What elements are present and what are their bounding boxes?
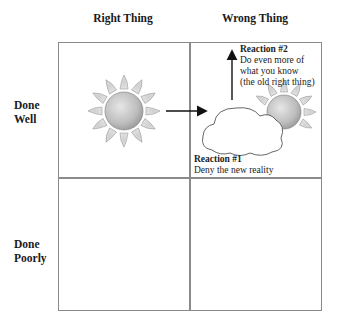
reaction-2-text: what you know <box>240 66 299 76</box>
reaction-2-title: Reaction #2 <box>240 44 315 55</box>
reaction-2-text: Do even more of <box>240 55 304 65</box>
reaction-1-text: Deny the new reality <box>194 165 273 175</box>
reaction-1-title: Reaction #1 <box>194 154 273 165</box>
sun-icon <box>88 75 160 147</box>
reaction-2-label: Reaction #2 Do even more of what you kno… <box>240 44 315 88</box>
reaction-2-text: (the old right thing) <box>240 77 315 87</box>
reaction-1-label: Reaction #1 Deny the new reality <box>194 154 273 176</box>
